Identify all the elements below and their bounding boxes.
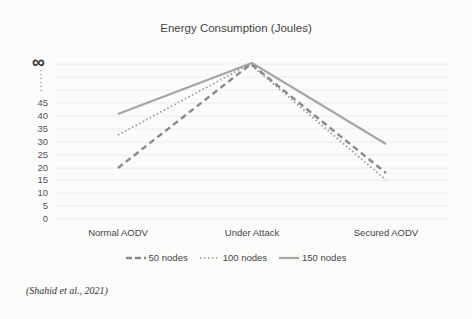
legend-item-150-nodes: 150 nodes (279, 252, 346, 263)
y-tick: 30 (30, 137, 48, 147)
x-category: Normal AODV (58, 227, 178, 238)
y-tick: 10 (30, 188, 48, 198)
y-tick: 35 (30, 124, 48, 134)
y-tick: 40 (30, 111, 48, 121)
gridlines (55, 64, 450, 219)
x-category: Secured AODV (326, 227, 446, 238)
x-category: Under Attack (192, 227, 312, 238)
legend-item-50-nodes: 50 nodes (126, 252, 188, 263)
solid-line-swatch-icon (279, 255, 299, 261)
legend-item-100-nodes: 100 nodes (200, 252, 267, 263)
y-tick: 5 (30, 201, 48, 211)
figure: Energy Consumption (Joules) ∞ 45 (0, 0, 472, 319)
y-tick: 0 (30, 214, 48, 224)
legend-label: 100 nodes (223, 252, 267, 263)
plot-area (0, 0, 472, 319)
legend-label: 150 nodes (302, 252, 346, 263)
y-tick: 15 (30, 175, 48, 185)
y-tick: 45 (30, 98, 48, 108)
series-100-nodes (118, 64, 386, 180)
dotted-line-swatch-icon (200, 255, 220, 261)
dashed-line-swatch-icon (126, 255, 146, 261)
figure-caption: (Shahid et al., 2021) (26, 285, 108, 296)
y-tick: 25 (30, 150, 48, 160)
legend-label: 50 nodes (149, 252, 188, 263)
infinity-label: ∞ (32, 54, 45, 70)
legend: 50 nodes 100 nodes 150 nodes (0, 252, 472, 263)
y-tick: 20 (30, 163, 48, 173)
